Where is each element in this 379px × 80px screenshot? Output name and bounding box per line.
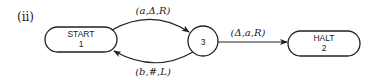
node-halt: HALT 2 [288, 31, 360, 56]
node-start-label: START [67, 29, 94, 39]
part-label: (ii) [17, 10, 34, 24]
turing-machine-diagram: (ii) START 1 3 HALT 2 (a,Δ,R) (b,#,L) (Δ… [0, 0, 379, 80]
node-halt-label: HALT [313, 33, 334, 43]
node-state-3: 3 [188, 26, 218, 56]
edge-start-to-3-label: (a,Δ,R) [136, 5, 171, 16]
edge-start-to-3 [112, 19, 189, 32]
node-halt-number: 2 [322, 43, 327, 53]
edge-3-to-halt-label: (Δ,a,R) [231, 27, 266, 38]
node-start: START 1 [45, 27, 117, 52]
edge-3-to-start-label: (b,#,L) [135, 66, 171, 77]
node-start-number: 1 [79, 39, 84, 49]
node-state-3-label: 3 [201, 37, 206, 47]
edge-3-to-start [114, 51, 193, 63]
